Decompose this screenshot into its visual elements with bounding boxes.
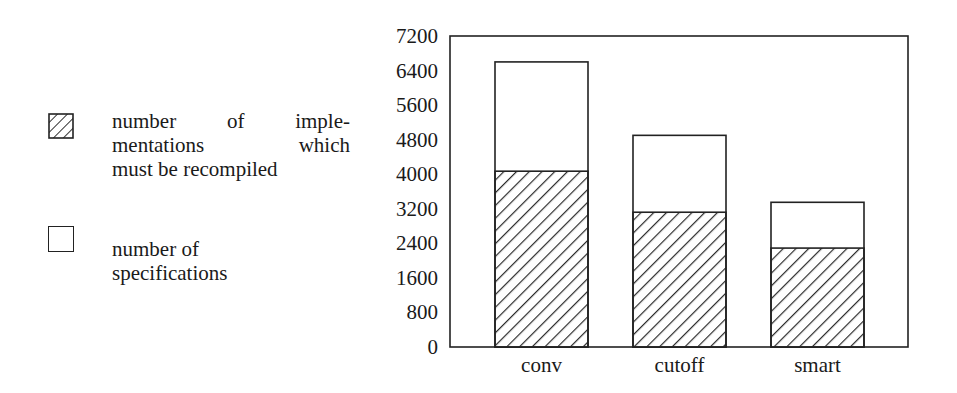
y-tick-label: 4000 (396, 162, 438, 186)
y-tick-label: 0 (428, 335, 439, 359)
y-tick-label: 800 (407, 300, 439, 324)
y-tick-label: 6400 (396, 59, 438, 83)
x-axis-labels: convcutoffsmart (521, 353, 841, 377)
y-tick-label: 1600 (396, 266, 438, 290)
bar-segment-implementations (771, 248, 864, 347)
bars (495, 62, 864, 347)
y-tick-label: 7200 (396, 24, 438, 48)
x-tick-label: cutoff (655, 353, 705, 377)
bar-segment-implementations (633, 212, 726, 347)
x-tick-label: conv (521, 353, 562, 377)
y-tick-label: 4800 (396, 128, 438, 152)
x-tick-label: smart (794, 353, 841, 377)
bar-segment-implementations (495, 171, 588, 347)
y-tick-label: 3200 (396, 197, 438, 221)
y-tick-label: 5600 (396, 93, 438, 117)
y-axis-ticks: 080016002400320040004800560064007200 (396, 24, 438, 359)
y-tick-label: 2400 (396, 231, 438, 255)
bar-cutoff (633, 135, 726, 347)
bar-smart (771, 202, 864, 347)
bar-conv (495, 62, 588, 347)
stacked-bar-chart: 080016002400320040004800560064007200 con… (0, 0, 957, 393)
